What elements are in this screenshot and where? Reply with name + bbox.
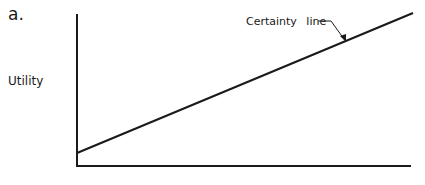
chart-plot: [0, 0, 425, 185]
annotation-arrow: [318, 21, 344, 39]
certainty-line: [77, 13, 413, 153]
